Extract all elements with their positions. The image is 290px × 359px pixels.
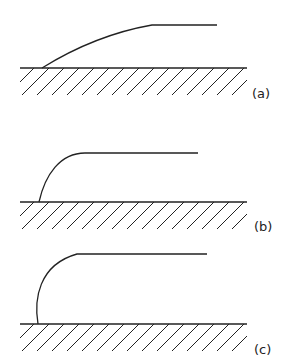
droplet-profile (39, 153, 198, 202)
panel-label-b: (b) (254, 219, 272, 234)
panel-b (7, 153, 259, 229)
hatched-solid (7, 68, 259, 95)
hatched-solid (7, 202, 259, 229)
panel-label-a: (a) (252, 86, 270, 101)
panel-c (7, 254, 259, 351)
panel-a (7, 25, 259, 95)
droplet-profile (42, 25, 217, 68)
panel-label-c: (c) (254, 342, 271, 357)
contact-angle-diagram (0, 0, 290, 359)
droplet-profile (37, 254, 207, 324)
hatched-solid (7, 324, 259, 351)
